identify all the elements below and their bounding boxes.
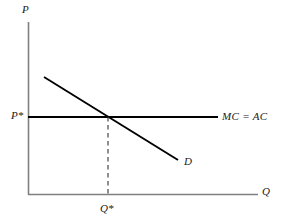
y-axis-label: P — [22, 4, 29, 15]
economics-diagram: P Q P* Q* MC = AC D — [0, 0, 285, 222]
equilibrium-quantity-label: Q* — [100, 203, 113, 214]
demand-curve-label: D — [184, 156, 192, 167]
x-axis-label: Q — [262, 186, 270, 197]
mc-ac-curve-label: MC = AC — [222, 111, 267, 122]
equilibrium-price-label: P* — [11, 110, 23, 121]
demand-curve — [44, 77, 178, 160]
